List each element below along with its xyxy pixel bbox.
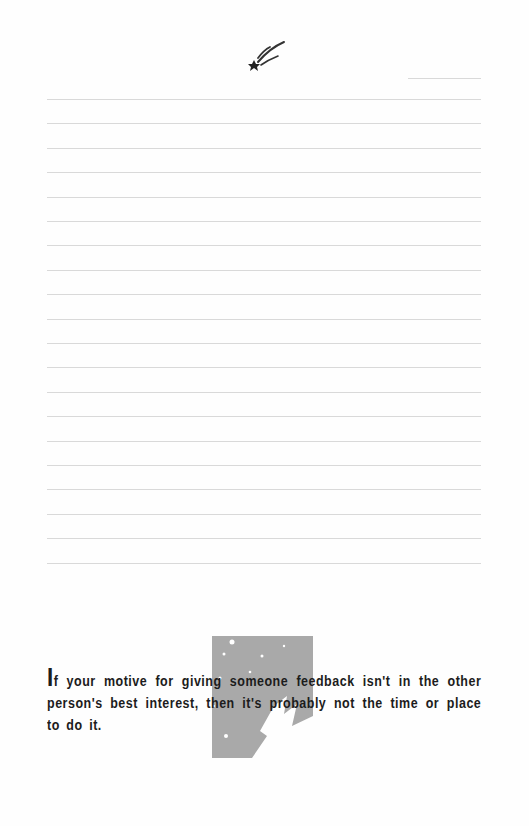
writing-line — [47, 319, 481, 320]
writing-line — [47, 367, 481, 368]
writing-line — [47, 465, 481, 466]
writing-line — [47, 270, 481, 271]
writing-line — [47, 172, 481, 173]
drop-cap: I — [47, 662, 54, 692]
writing-line — [47, 441, 481, 442]
shooting-star-icon — [240, 38, 290, 78]
writing-line — [47, 294, 481, 295]
writing-line — [47, 99, 481, 100]
writing-line — [47, 245, 481, 246]
journal-page: If your motive for giving someone feedba… — [0, 0, 529, 826]
writing-line — [47, 538, 481, 539]
quote-text: If your motive for giving someone feedba… — [47, 668, 481, 736]
quote-body: f your motive for giving someone feedbac… — [47, 673, 481, 733]
writing-line — [47, 563, 481, 564]
writing-line — [47, 343, 481, 344]
writing-line — [47, 148, 481, 149]
writing-line — [47, 416, 481, 417]
writing-line — [47, 514, 481, 515]
writing-line — [408, 78, 481, 79]
writing-line — [47, 392, 481, 393]
writing-line — [47, 197, 481, 198]
writing-line — [47, 123, 481, 124]
writing-line — [47, 489, 481, 490]
writing-line — [47, 221, 481, 222]
